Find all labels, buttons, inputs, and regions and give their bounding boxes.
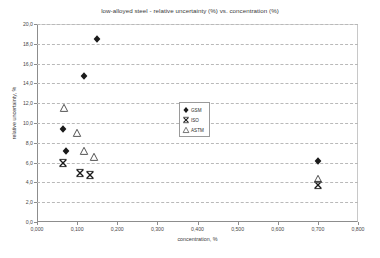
y-tick-label: 0,0 [3,219,33,225]
gridline [37,143,358,144]
x-tick-label: 0,000 [17,226,57,232]
y-tick-mark [34,182,37,183]
y-tick-label: 2,0 [3,199,33,205]
chart-title: low-alloyed steel - relative uncertainty… [0,7,380,14]
y-tick-mark [34,24,37,25]
x-tick-label: 0,700 [298,226,338,232]
y-tick-label: 6,0 [3,160,33,166]
y-tick-label: 14,0 [3,80,33,86]
x-tick-label: 0,300 [137,226,177,232]
y-tick-label: 18,0 [3,41,33,47]
y-tick-label: 4,0 [3,179,33,185]
y-tick-mark [34,143,37,144]
chart-container: low-alloyed steel - relative uncertainty… [0,0,380,258]
cross-x-marker-icon [182,116,190,125]
diamond-marker-icon [182,106,190,115]
legend-item-gsm: GSM [182,105,208,115]
triangle-marker-icon [182,126,190,135]
y-tick-mark [34,163,37,164]
x-tick-mark [117,222,118,225]
legend-label-gsm: GSM [191,106,201,115]
x-tick-label: 0,800 [338,226,378,232]
y-tick-label: 16,0 [3,61,33,67]
gridline [37,202,358,203]
x-tick-mark [278,222,279,225]
y-axis-title: relative uncertainty, % [11,53,17,173]
gridline [37,163,358,164]
x-tick-mark [157,222,158,225]
y-tick-mark [34,44,37,45]
x-tick-mark [37,222,38,225]
legend-label-astm: ASTM [191,126,204,135]
x-tick-mark [358,222,359,225]
chart-legend: GSM ISO ASTM [179,102,210,137]
y-tick-mark [34,103,37,104]
legend-label-iso: ISO [191,116,199,125]
x-tick-label: 0,500 [218,226,258,232]
x-tick-label: 0,600 [258,226,298,232]
y-tick-mark [34,202,37,203]
x-tick-mark [77,222,78,225]
x-tick-mark [318,222,319,225]
y-tick-label: 20,0 [3,21,33,27]
y-tick-label: 12,0 [3,100,33,106]
x-tick-label: 0,200 [97,226,137,232]
y-tick-mark [34,123,37,124]
x-tick-mark [198,222,199,225]
y-tick-label: 8,0 [3,140,33,146]
x-tick-mark [238,222,239,225]
gridline [37,83,358,84]
legend-item-iso: ISO [182,115,208,125]
x-tick-label: 0,100 [57,226,97,232]
y-tick-mark [34,64,37,65]
y-tick-mark [34,83,37,84]
legend-item-astm: ASTM [182,125,208,135]
y-tick-label: 10,0 [3,120,33,126]
gridline [37,64,358,65]
x-tick-label: 0,400 [178,226,218,232]
gridline [37,182,358,183]
x-axis-title: concentration, % [37,236,358,242]
gridline [37,44,358,45]
gridline [37,24,358,25]
